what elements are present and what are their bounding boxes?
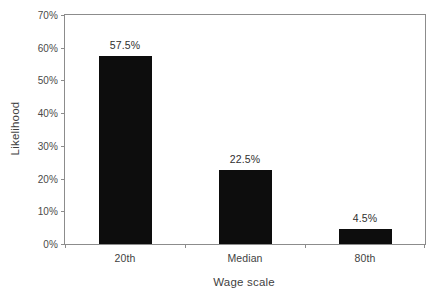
x-tick-mark [424, 244, 425, 248]
x-tick-label: 20th [115, 252, 136, 264]
y-tick-mark [61, 80, 65, 81]
y-tick-mark [61, 15, 65, 16]
bar-value-label: 57.5% [110, 39, 140, 51]
x-tick-label: 80th [355, 252, 376, 264]
x-axis-title: Wage scale [64, 276, 424, 288]
y-tick-mark [61, 146, 65, 147]
bar [99, 56, 152, 244]
bar [339, 229, 392, 244]
x-tick-mark [65, 244, 66, 248]
plot-area: 0%10%20%30%40%50%60%70% 20thMedian80th 5… [64, 14, 426, 245]
bar-chart: Likelihood 0%10%20%30%40%50%60%70% 20thM… [0, 0, 440, 302]
y-axis-title: Likelihood [4, 14, 26, 243]
y-tick-mark [61, 113, 65, 114]
y-tick-mark [61, 211, 65, 212]
bar [219, 170, 272, 244]
bar-value-label: 4.5% [353, 212, 377, 224]
y-tick-mark [61, 48, 65, 49]
y-tick-mark [61, 179, 65, 180]
bar-value-label: 22.5% [230, 153, 260, 165]
x-tick-mark [305, 244, 306, 248]
x-tick-mark [185, 244, 186, 248]
x-tick-label: Median [227, 252, 262, 264]
